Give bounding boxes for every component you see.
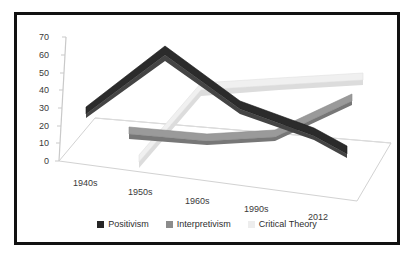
y-tick-label-20: 20 (27, 121, 49, 131)
y-tick-label-70: 70 (27, 32, 49, 42)
floor-plane (59, 118, 391, 201)
legend-item-critical-theory[interactable]: Critical Theory (248, 219, 317, 229)
y-tick-label-40: 40 (27, 85, 49, 95)
chart-legend: Positivism Interpretivism Critical Theor… (17, 219, 397, 229)
chart-frame: 70 60 50 40 30 20 10 0 1940s 1950s 1960s… (14, 12, 400, 245)
legend-label-interpretivism: Interpretivism (177, 219, 231, 229)
x-tick-label-1960s: 1960s (185, 196, 210, 206)
y-tick-label-60: 60 (27, 50, 49, 60)
chart-plot-area: 70 60 50 40 30 20 10 0 1940s 1950s 1960s… (17, 15, 397, 242)
legend-item-positivism[interactable]: Positivism (97, 219, 149, 229)
y-axis-line (59, 37, 66, 161)
legend-item-interpretivism[interactable]: Interpretivism (166, 219, 231, 229)
x-tick-label-1940s: 1940s (73, 178, 98, 188)
legend-label-positivism: Positivism (108, 219, 149, 229)
x-tick-label-1950s: 1950s (128, 187, 153, 197)
line-chart-svg (17, 15, 397, 242)
legend-label-critical-theory: Critical Theory (259, 219, 317, 229)
legend-swatch-positivism (97, 221, 104, 228)
y-tick-label-0: 0 (27, 156, 49, 166)
x-tick-label-1990s: 1990s (244, 204, 269, 214)
legend-swatch-interpretivism (166, 221, 173, 228)
y-tick-label-10: 10 (27, 138, 49, 148)
y-tick-label-50: 50 (27, 68, 49, 78)
y-tick-label-30: 30 (27, 103, 49, 113)
legend-swatch-critical-theory (248, 221, 255, 228)
